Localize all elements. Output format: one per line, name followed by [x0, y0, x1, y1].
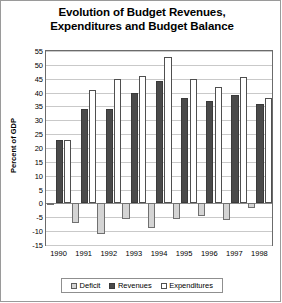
legend-label: Revenues: [118, 281, 152, 290]
bar-group: [71, 51, 96, 245]
bar-expenditures-1997[interactable]: [240, 77, 247, 203]
y-tick-45: 45: [35, 74, 43, 83]
bar-deficit-1996[interactable]: [198, 203, 205, 215]
bar-deficit-1993[interactable]: [122, 203, 129, 218]
y-tick--5: -5: [36, 213, 43, 222]
bar-revenues-1993[interactable]: [131, 93, 138, 204]
chart-title-line-2: Expenditures and Budget Balance: [19, 20, 265, 34]
y-axis-label: Percent of GDP: [9, 91, 18, 201]
legend-label: Expenditures: [169, 281, 213, 290]
bar-expenditures-1991[interactable]: [89, 90, 96, 204]
legend-swatch-deficit-icon: [71, 283, 77, 289]
bar-revenues-1992[interactable]: [106, 109, 113, 203]
bar-expenditures-1992[interactable]: [114, 79, 121, 204]
y-tick-50: 50: [35, 60, 43, 69]
bar-expenditures-1998[interactable]: [265, 98, 272, 203]
y-tick-55: 55: [35, 47, 43, 56]
x-tick-1992: 1992: [100, 249, 117, 258]
bar-expenditures-1996[interactable]: [215, 87, 222, 203]
bar-group: [197, 51, 222, 245]
x-tick-1998: 1998: [251, 249, 268, 258]
y-tick-40: 40: [35, 88, 43, 97]
bar-group: [172, 51, 197, 245]
bar-deficit-1991[interactable]: [72, 203, 79, 222]
x-axis-tick-labels: 199019911992199319941995199619971998: [45, 249, 273, 263]
bar-group: [247, 51, 272, 245]
bar-deficit-1992[interactable]: [97, 203, 104, 233]
x-tick-1991: 1991: [75, 249, 92, 258]
plot-area: [45, 50, 273, 246]
bar-group: [121, 51, 146, 245]
bar-revenues-1997[interactable]: [231, 95, 238, 203]
y-tick-0: 0: [39, 199, 43, 208]
x-tick-1990: 1990: [50, 249, 67, 258]
bar-revenues-1990[interactable]: [56, 140, 63, 204]
legend-swatch-expenditures-icon: [161, 283, 167, 289]
bar-revenues-1995[interactable]: [181, 98, 188, 203]
bar-expenditures-1994[interactable]: [164, 57, 171, 204]
y-tick--15: -15: [32, 241, 43, 250]
y-tick-5: 5: [39, 185, 43, 194]
y-axis-tick-labels: 5550454035302520151050-5-10-15: [19, 50, 43, 246]
bar-expenditures-1990[interactable]: [64, 140, 71, 204]
x-tick-1995: 1995: [176, 249, 193, 258]
y-tick-20: 20: [35, 144, 43, 153]
bar-deficit-1995[interactable]: [173, 203, 180, 218]
chart-title-line-1: Evolution of Budget Revenues,: [19, 6, 265, 20]
gridline--15: [46, 245, 272, 246]
x-tick-1994: 1994: [151, 249, 168, 258]
legend-label: Deficit: [80, 281, 101, 290]
bar-deficit-1990[interactable]: [47, 203, 54, 205]
bar-revenues-1994[interactable]: [156, 81, 163, 203]
bar-expenditures-1995[interactable]: [190, 79, 197, 204]
x-tick-1993: 1993: [126, 249, 143, 258]
x-tick-1996: 1996: [201, 249, 218, 258]
legend-swatch-revenues-icon: [109, 283, 115, 289]
bar-revenues-1996[interactable]: [206, 101, 213, 204]
bar-deficit-1997[interactable]: [223, 203, 230, 220]
bar-expenditures-1993[interactable]: [139, 76, 146, 203]
bar-revenues-1998[interactable]: [256, 104, 263, 204]
legend-item-revenues[interactable]: Revenues: [109, 281, 151, 290]
bar-deficit-1998[interactable]: [248, 203, 255, 207]
y-tick-25: 25: [35, 130, 43, 139]
y-tick-35: 35: [35, 102, 43, 111]
bar-series-container: [46, 51, 272, 245]
bar-group: [46, 51, 71, 245]
legend-item-deficit[interactable]: Deficit: [71, 281, 100, 290]
bar-group: [96, 51, 121, 245]
y-tick--10: -10: [32, 227, 43, 236]
x-tick-1997: 1997: [226, 249, 243, 258]
y-tick-10: 10: [35, 171, 43, 180]
y-tick-30: 30: [35, 116, 43, 125]
chart-title: Evolution of Budget Revenues, Expenditur…: [19, 6, 265, 33]
y-tick-15: 15: [35, 157, 43, 166]
bar-revenues-1991[interactable]: [81, 109, 88, 203]
bar-group: [222, 51, 247, 245]
chart-container: Evolution of Budget Revenues, Expenditur…: [0, 0, 281, 302]
bar-deficit-1994[interactable]: [148, 203, 155, 228]
legend-item-expenditures[interactable]: Expenditures: [161, 281, 213, 290]
bar-group: [146, 51, 171, 245]
chart-legend: DeficitRevenuesExpenditures: [61, 278, 223, 293]
